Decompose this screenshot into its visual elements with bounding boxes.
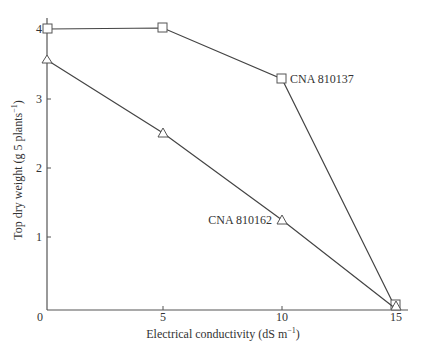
series-cna-810137-markers [43, 23, 400, 309]
y-axis-label: Top dry weight (g 5 plants−1) [10, 100, 25, 239]
series-label-cna-810137: CNA 810137 [290, 72, 354, 86]
series-cna-810137-line [47, 28, 396, 309]
x-tick-5: 5 [160, 310, 166, 324]
chart: 4 3 2 1 0 5 10 15 Electrical conductivit… [0, 0, 428, 352]
y-tick-4: 4 [36, 22, 42, 36]
x-tick-10: 10 [276, 310, 288, 324]
series-cna-810162-markers [42, 55, 401, 310]
x-tick-15: 15 [390, 310, 402, 324]
series-cna-810162-line [47, 60, 396, 309]
y-tick-3: 3 [36, 92, 42, 106]
y-tick-1: 1 [36, 230, 42, 244]
x-axis-label: Electrical conductivity (dS m−1) [146, 326, 299, 341]
series-label-cna-810162: CNA 810162 [208, 213, 272, 227]
x-tick-0: 0 [37, 310, 43, 324]
x-tick-labels: 0 5 10 15 [37, 310, 402, 324]
y-tick-2: 2 [36, 161, 42, 175]
y-tick-labels: 4 3 2 1 [36, 22, 42, 244]
